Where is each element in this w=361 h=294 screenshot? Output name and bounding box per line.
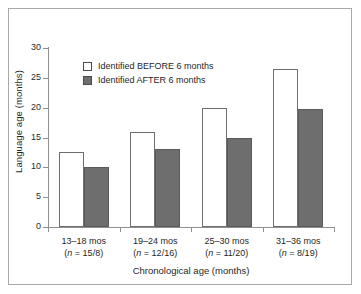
legend-item-after: Identified AFTER 6 months xyxy=(83,73,214,87)
y-tick-20 xyxy=(43,108,48,109)
chart-legend: Identified BEFORE 6 months Identified AF… xyxy=(83,59,214,87)
x-tick-1 xyxy=(48,227,49,232)
bar-after-group-3 xyxy=(227,138,252,227)
x-group-label-n-4: (n = 8/19) xyxy=(253,247,343,259)
bar-after-group-4 xyxy=(298,109,323,227)
bar-after-group-1 xyxy=(84,167,109,227)
x-group-label-range-4: 31–36 mos xyxy=(253,235,343,247)
bar-before-group-1 xyxy=(59,152,84,227)
legend-swatch-before-icon xyxy=(83,62,92,71)
legend-label-after: Identified AFTER 6 months xyxy=(98,74,206,87)
bar-after-group-2 xyxy=(155,149,180,227)
x-tick-end xyxy=(334,227,335,232)
y-tick-15 xyxy=(43,138,48,139)
legend-label-before: Identified BEFORE 6 months xyxy=(98,60,214,73)
x-group-label-4: 31–36 mos(n = 8/19) xyxy=(253,235,343,259)
bar-before-group-3 xyxy=(202,108,227,227)
y-tick-label-0: 0 xyxy=(1,222,41,231)
x-axis-title: Chronological age (months) xyxy=(48,265,334,276)
bar-before-group-2 xyxy=(130,132,155,227)
x-tick-4 xyxy=(263,227,264,232)
y-tick-30 xyxy=(43,48,48,49)
bar-chart-figure: 051015202530 Language age (months) 13–18… xyxy=(0,0,361,294)
legend-item-before: Identified BEFORE 6 months xyxy=(83,59,214,73)
legend-swatch-after-icon xyxy=(83,76,92,85)
y-tick-10 xyxy=(43,167,48,168)
y-tick-25 xyxy=(43,78,48,79)
x-tick-2 xyxy=(120,227,121,232)
x-tick-3 xyxy=(191,227,192,232)
y-axis-title: Language age (months) xyxy=(13,42,24,202)
y-axis-line xyxy=(48,47,49,228)
y-tick-5 xyxy=(43,197,48,198)
bar-before-group-4 xyxy=(273,69,298,227)
